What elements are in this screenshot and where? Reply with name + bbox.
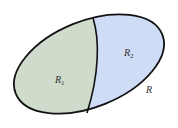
region-diagram: R1 R2 R [0,0,178,128]
region-r1-fill [0,0,97,128]
label-r: R [145,84,152,95]
